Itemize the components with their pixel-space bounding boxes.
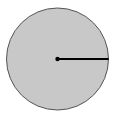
center-point — [55, 57, 59, 61]
circle-diagram — [0, 0, 116, 117]
